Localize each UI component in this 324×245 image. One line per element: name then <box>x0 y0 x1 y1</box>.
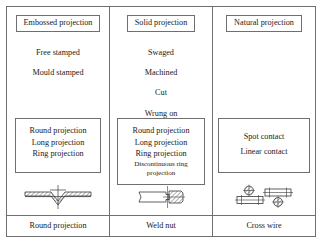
sheet-with-round-projection-section-icon <box>21 184 95 210</box>
method-item: Mould stamped <box>32 69 83 77</box>
detail-item: Discontinuous ring projection <box>122 160 200 179</box>
methods-list-1: Free stamped Mould stamped <box>7 40 109 116</box>
column-natural-projection: Natural projection Spot contact Linear c… <box>212 7 315 236</box>
diagram-zone-1 <box>7 178 109 215</box>
caption-zone-3: Cross wire <box>213 215 315 236</box>
method-item: Free stamped <box>36 49 80 57</box>
detail-box-natural: Spot contact Linear contact <box>218 118 310 173</box>
column-solid-projection: Solid projection Swaged Machined Cut Wru… <box>109 7 212 236</box>
weld-nut-section-icon <box>133 184 189 210</box>
detail-item: Round projection <box>20 125 96 137</box>
detail-box-solid: Round projection Long projection Ring pr… <box>117 118 205 185</box>
detail-zone-1: Round projection Long projection Ring pr… <box>7 116 109 178</box>
column-container: Embossed projection Free stamped Mould s… <box>7 7 315 236</box>
diagram-zone-2 <box>110 178 212 215</box>
column-header-natural-projection: Natural projection <box>226 15 302 32</box>
cross-wire-section-icon <box>232 183 296 211</box>
caption-zone-1: Round projection <box>7 215 109 236</box>
header-zone-3: Natural projection <box>213 7 315 40</box>
diagram-zone-3 <box>213 178 315 215</box>
header-zone-1: Embossed projection <box>7 7 109 40</box>
diagram-caption-weld-nut: Weld nut <box>146 222 176 230</box>
caption-zone-2: Weld nut <box>110 215 212 236</box>
column-embossed-projection: Embossed projection Free stamped Mould s… <box>7 7 109 236</box>
methods-list-3 <box>213 40 315 116</box>
detail-item: Linear contact <box>223 144 305 159</box>
detail-item: Ring projection <box>20 148 96 160</box>
detail-zone-3: Spot contact Linear contact <box>213 116 315 178</box>
header-zone-2: Solid projection <box>110 7 212 40</box>
diagram-caption-round-projection: Round projection <box>29 222 86 230</box>
detail-item: Long projection <box>20 137 96 149</box>
method-item: Swaged <box>148 49 174 57</box>
figure-frame: Embossed projection Free stamped Mould s… <box>6 6 316 237</box>
detail-item: Ring projection <box>122 148 200 160</box>
detail-item: Spot contact <box>223 129 305 144</box>
detail-item: Round projection <box>122 125 200 137</box>
column-header-embossed-projection: Embossed projection <box>16 15 101 32</box>
column-header-solid-projection: Solid projection <box>127 15 196 32</box>
method-item: Cut <box>155 89 167 97</box>
methods-list-2: Swaged Machined Cut Wrung on <box>110 40 212 116</box>
detail-zone-2: Round projection Long projection Ring pr… <box>110 116 212 178</box>
diagram-caption-cross-wire: Cross wire <box>246 222 281 230</box>
detail-item: Long projection <box>122 137 200 149</box>
method-item: Machined <box>145 69 178 77</box>
detail-box-embossed: Round projection Long projection Ring pr… <box>15 118 101 173</box>
